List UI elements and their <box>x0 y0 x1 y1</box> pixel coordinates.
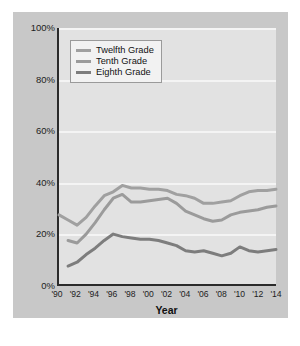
x-tick-label: '12 <box>252 290 263 299</box>
x-tick-label: '02 <box>161 290 172 299</box>
y-tick-label: 20% <box>15 229 55 239</box>
y-tick-label: 40% <box>15 178 55 188</box>
legend-swatch-icon <box>76 71 91 74</box>
x-axis: '90'92'94'96'98'00'02'04'06'08'10'12'14 <box>57 290 278 303</box>
legend-item: Twelfth Grade <box>76 45 154 56</box>
x-tick-label: '08 <box>216 290 227 299</box>
y-tick-label: 60% <box>15 126 55 136</box>
series-line <box>68 234 276 266</box>
x-tick-label: '10 <box>234 290 245 299</box>
legend-swatch-icon <box>76 60 91 63</box>
series-line <box>59 185 276 225</box>
legend-label: Eighth Grade <box>96 68 151 77</box>
x-tick-label: '96 <box>106 290 117 299</box>
y-tick-label: 100% <box>15 23 55 33</box>
x-tick-label: '06 <box>197 290 208 299</box>
x-tick-label: '92 <box>70 290 81 299</box>
legend-item: Eighth Grade <box>76 67 154 78</box>
legend-item: Tenth Grade <box>76 56 154 67</box>
legend-swatch-icon <box>76 49 91 52</box>
x-tick-label: '98 <box>124 290 135 299</box>
y-tick-label: 0% <box>15 281 55 291</box>
chart-legend: Twelfth GradeTenth GradeEighth Grade <box>70 40 162 83</box>
chart-figure: 0%20%40%60%80%100% '90'92'94'96'98'00'02… <box>13 12 288 318</box>
x-tick-label: '14 <box>270 290 281 299</box>
legend-label: Tenth Grade <box>96 57 147 66</box>
y-tick-label: 80% <box>15 75 55 85</box>
x-tick-label: '90 <box>51 290 62 299</box>
x-tick-label: '00 <box>143 290 154 299</box>
x-axis-title: Year <box>57 304 276 316</box>
legend-label: Twelfth Grade <box>96 46 154 55</box>
x-tick-label: '94 <box>88 290 99 299</box>
x-tick-label: '04 <box>179 290 190 299</box>
y-axis: 0%20%40%60%80%100% <box>13 28 55 286</box>
